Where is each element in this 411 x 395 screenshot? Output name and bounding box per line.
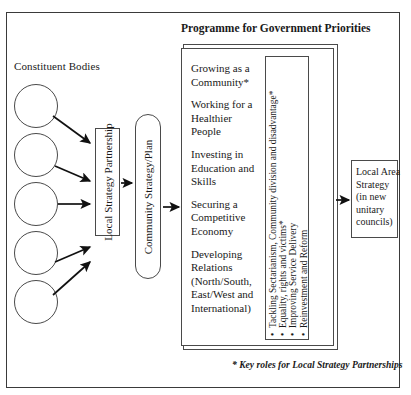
diagram-canvas: Constituent Bodies Local Strategy Partne…: [0, 0, 411, 395]
community-strategy-plan-label: Community Strategy/Plan: [142, 139, 154, 254]
constituent-body-circle-3: [14, 182, 58, 226]
priority-item: Growing as a Community*: [191, 62, 263, 89]
constituent-body-circle-1: [14, 84, 58, 128]
key-role-item: • Tackling Sectarianism, Community divis…: [268, 61, 278, 337]
local-area-strategy-line: Strategy: [356, 179, 394, 192]
local-area-strategy-line: councils): [356, 216, 394, 229]
constituent-body-circle-4: [14, 231, 58, 275]
bullet-icon: •: [268, 333, 278, 336]
key-role-label: Equality, rights and victims*: [278, 220, 288, 328]
key-roles-box: • Tackling Sectarianism, Community divis…: [265, 56, 309, 340]
bullet-icon: •: [288, 333, 298, 336]
local-strategy-partnership-label: Local Strategy Partnership: [102, 123, 114, 240]
key-role-item: • Improving Service Delivery: [288, 61, 298, 337]
constituent-body-circle-5: [14, 280, 58, 324]
key-role-label: Improving Service Delivery: [288, 223, 298, 328]
key-role-item: • Equality, rights and victims*: [278, 61, 288, 337]
constituent-body-circle-2: [14, 133, 58, 177]
local-area-strategy-line: unitary: [356, 204, 394, 217]
local-area-strategy-box: Local Area Strategy (in new unitary coun…: [351, 160, 398, 238]
key-role-label: Tackling Sectarianism, Community divisio…: [268, 91, 278, 328]
priorities-list: Growing as a Community* Working for a He…: [191, 62, 263, 325]
local-area-strategy-line: Local Area: [356, 166, 394, 179]
priority-item: Developing Relations (North/South, East/…: [191, 248, 263, 316]
bullet-icon: •: [278, 333, 288, 336]
footnote-key-roles: * Key roles for Local Strategy Partnersh…: [232, 359, 403, 370]
key-role-label: Reinvestment and Reform: [299, 230, 309, 328]
constituent-bodies-label: Constituent Bodies: [14, 60, 100, 72]
key-role-item: • Reinvestment and Reform: [299, 61, 309, 337]
key-roles-rotated-list: • Tackling Sectarianism, Community divis…: [266, 57, 310, 341]
local-area-strategy-line: (in new: [356, 191, 394, 204]
local-strategy-partnership-box: Local Strategy Partnership: [95, 128, 120, 236]
bullet-icon: •: [299, 333, 309, 336]
priority-item: Securing a Competitive Economy: [191, 198, 263, 239]
priority-item: Investing in Education and Skills: [191, 148, 263, 189]
priority-item: Working for a Healthier People: [191, 98, 263, 139]
programme-title: Programme for Government Priorities: [181, 22, 371, 34]
community-strategy-plan-box: Community Strategy/Plan: [135, 114, 161, 279]
